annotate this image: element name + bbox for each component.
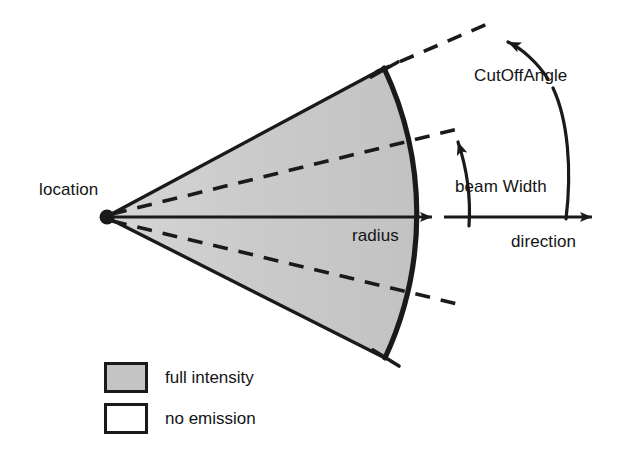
legend-item-no-emission: no emission (104, 402, 374, 435)
legend: full intensity no emission (104, 361, 374, 443)
legend-label-full-intensity: full intensity (165, 368, 254, 388)
label-beam-width: beam Width (455, 178, 547, 195)
location-point-marker (100, 210, 115, 225)
legend-swatch-no-emission (104, 403, 148, 434)
cut-off-angle-measure-arc (553, 88, 569, 219)
label-cut-off-angle: CutOffAngle (474, 67, 567, 84)
legend-label-no-emission: no emission (165, 409, 256, 429)
label-direction: direction (511, 233, 576, 250)
full-intensity-cone-region (106, 68, 417, 358)
spot-light-cone-diagram: location radius direction CutOffAngle be… (0, 0, 640, 462)
label-radius: radius (352, 227, 399, 244)
legend-swatch-full-intensity (104, 362, 148, 393)
legend-item-full-intensity: full intensity (104, 361, 374, 394)
label-location: location (39, 181, 98, 198)
